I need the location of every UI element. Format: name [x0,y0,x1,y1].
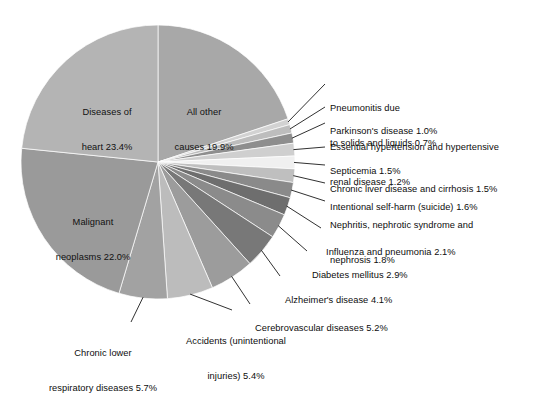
leader-line [278,226,307,251]
leader-line [293,147,325,150]
label-line-2: injuries) 5.4% [166,371,306,383]
label-line-1: Malignant [26,217,160,229]
label-line-2: heart 23.4% [52,142,162,154]
label-line-1: Chronic lower [28,348,178,360]
label-line-2: respiratory diseases 5.7% [28,383,178,395]
leader-line [292,123,325,138]
leader-line [232,276,250,304]
label-line-1: Accidents (unintentional [166,336,306,348]
label-line-1: All other [148,107,260,119]
leader-line [261,250,280,276]
callout-label-accidents: Accidents (unintentional injuries) 5.4% [166,313,306,397]
leader-line [288,84,325,122]
slice-label-all-other-causes: All other causes 19.9% [148,84,260,177]
leader-line [291,190,325,201]
label-line-2: causes 19.9% [148,142,260,154]
leader-line [287,206,321,228]
leader-line [190,294,232,310]
label-line-1: Diseases of [52,107,162,119]
leader-line [294,162,325,165]
leader-line [293,176,325,183]
slice-label-diseases-of-heart: Diseases of heart 23.4% [52,84,162,177]
leader-line [131,297,143,322]
slice-label-malignant-neoplasms: Malignant neoplasms 22.0% [26,194,160,287]
label-line-2: neoplasms 22.0% [26,252,160,264]
callout-label-chronic-lower-resp: Chronic lower respiratory diseases 5.7% [28,325,178,397]
